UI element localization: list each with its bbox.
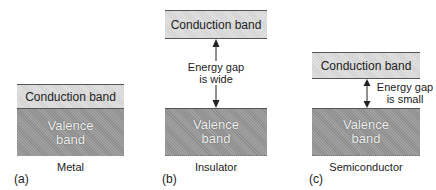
semiconductor-valence-label-1: Valence xyxy=(343,118,389,132)
metal-valence-band: Valence band xyxy=(17,108,124,156)
panel-label-a: (a) xyxy=(14,172,29,186)
metal-caption: Metal xyxy=(17,161,124,173)
semiconductor-conduction-label: Conduction band xyxy=(321,59,412,73)
insulator-valence-label-1: Valence xyxy=(193,118,239,132)
insulator-valence-band: Valence band xyxy=(165,108,267,156)
metal-valence-label-2: band xyxy=(56,133,85,147)
semiconductor-valence-label-2: band xyxy=(352,132,381,146)
insulator-conduction-band: Conduction band xyxy=(165,10,267,39)
metal-conduction-band: Conduction band xyxy=(17,84,124,109)
panel-label-c: (c) xyxy=(309,172,323,186)
insulator-conduction-label: Conduction band xyxy=(171,18,262,32)
semiconductor-gap-line-2: is small xyxy=(375,93,435,105)
semiconductor-valence-band: Valence band xyxy=(312,108,420,156)
insulator-gap-line-2: is wide xyxy=(186,73,246,85)
insulator-caption: Insulator xyxy=(165,161,267,173)
metal-valence-label-1: Valence xyxy=(47,119,93,133)
semiconductor-gap-line-1: Energy gap xyxy=(375,81,435,93)
small-gap-arrow-icon xyxy=(361,79,373,108)
semiconductor-conduction-band: Conduction band xyxy=(312,52,420,79)
panel-label-b: (b) xyxy=(162,172,177,186)
semiconductor-gap-label: Energy gap is small xyxy=(375,81,435,105)
insulator-gap-line-1: Energy gap xyxy=(186,61,246,73)
semiconductor-caption: Semiconductor xyxy=(312,161,420,173)
insulator-gap-label: Energy gap is wide xyxy=(186,61,246,85)
metal-conduction-label: Conduction band xyxy=(25,90,116,104)
insulator-valence-label-2: band xyxy=(202,132,231,146)
